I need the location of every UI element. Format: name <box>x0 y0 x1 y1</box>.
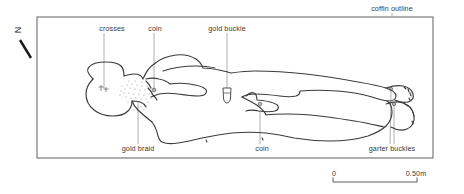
label-coin-lower: coin <box>255 145 269 152</box>
burial-plan-figure: N coffin outline crosses coin gold buckl… <box>0 0 464 194</box>
toe-notches-lower <box>405 104 414 124</box>
coin-lower-marker <box>258 102 262 106</box>
coffin-outline-rect <box>37 17 433 158</box>
scale-bar-max-label: 0.50m <box>406 170 426 177</box>
label-crosses: crosses <box>99 25 124 32</box>
coin-upper-marker <box>152 88 156 92</box>
shoulder-break-contour <box>132 101 152 122</box>
scale-bar <box>333 178 417 183</box>
gold-buckle-marker <box>223 88 231 103</box>
label-gold-braid: gold braid <box>122 145 155 152</box>
crosses-marker <box>99 85 109 92</box>
contour-tick-marks <box>206 138 263 142</box>
body-outline <box>86 55 414 144</box>
label-gold-buckle: gold buckle <box>208 25 245 32</box>
lower-arm-and-hand-contour <box>152 101 392 144</box>
scale-bar-min-label: 0 <box>332 170 336 177</box>
gold-braid-stipple <box>120 81 153 112</box>
north-arrow-label: N <box>13 27 23 34</box>
north-arrow-icon <box>20 40 31 58</box>
foot-upper-contour <box>386 86 413 103</box>
label-coffin-outline: coffin outline <box>371 5 413 12</box>
label-garter-buckles: garter buckles <box>369 145 416 152</box>
hand-upper-contour <box>146 78 206 97</box>
label-coin-upper: coin <box>148 25 162 32</box>
